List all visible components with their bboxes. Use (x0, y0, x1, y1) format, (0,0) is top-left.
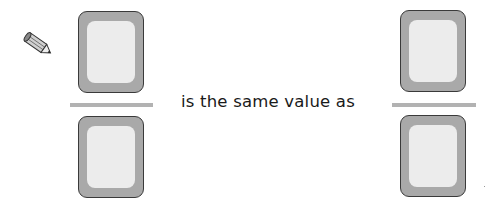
right-fraction-bar (392, 103, 476, 107)
left-numerator-input-area[interactable] (87, 21, 135, 83)
speck (484, 186, 485, 187)
right-denominator-input-area[interactable] (409, 125, 457, 187)
left-numerator-box[interactable] (78, 11, 144, 93)
right-denominator-box[interactable] (400, 115, 466, 197)
left-denominator-box[interactable] (78, 116, 144, 198)
right-numerator-box[interactable] (400, 10, 466, 92)
left-denominator-input-area[interactable] (87, 126, 135, 188)
left-fraction-bar (70, 103, 153, 107)
right-numerator-input-area[interactable] (409, 20, 457, 82)
pencil-icon (22, 31, 56, 59)
comparison-phrase: is the same value as (181, 92, 355, 111)
